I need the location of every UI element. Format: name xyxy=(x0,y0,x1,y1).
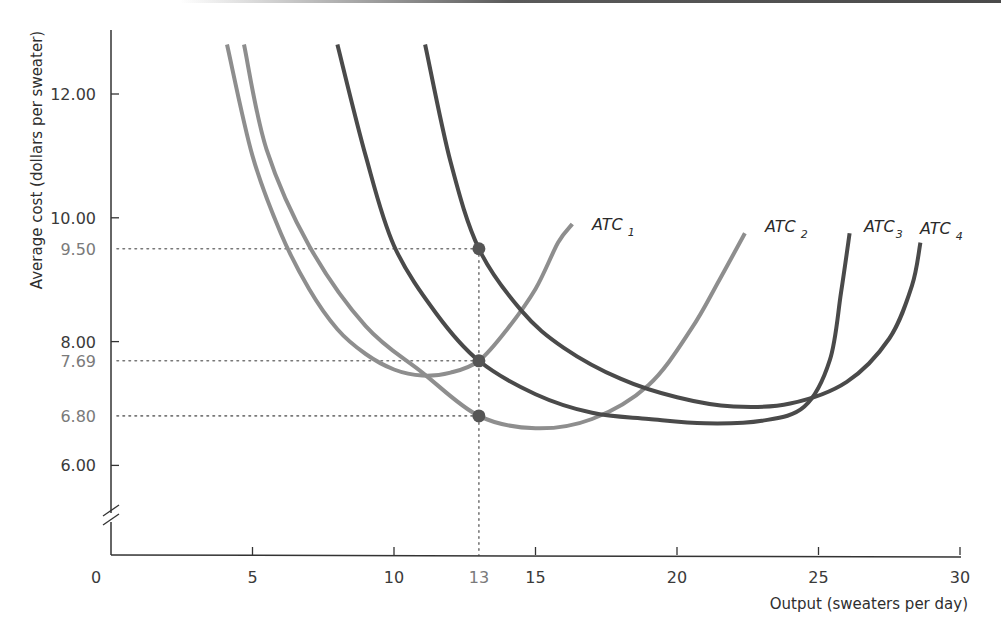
curve-label-atc1: ATC1 xyxy=(591,215,635,239)
curve-label-main: ATC xyxy=(591,215,624,234)
y-tick-label: 10.00 xyxy=(50,209,96,228)
curve-label-subscript: 4 xyxy=(956,230,963,243)
y-axis-title: Average cost (dollars per sweater) xyxy=(28,31,46,289)
y-tick-label: 7.69 xyxy=(60,352,96,371)
atc-chart: 12.0010.009.508.007.696.806.00 051013152… xyxy=(0,0,1001,636)
curve-label-main: ATC xyxy=(863,217,896,236)
x-tick-label: 5 xyxy=(247,568,257,587)
curve-labels: ATC1ATC2ATC3ATC4 xyxy=(591,215,963,243)
x-tick-label: 25 xyxy=(808,568,828,587)
curve-label-atc4: ATC4 xyxy=(919,219,963,243)
curve-atc4 xyxy=(425,45,920,408)
x-tick-label: 10 xyxy=(384,568,404,587)
curve-label-atc2: ATC2 xyxy=(764,217,808,241)
x-tick-label: 15 xyxy=(525,568,545,587)
y-tick-label: 12.00 xyxy=(50,85,96,104)
x-tick-label: 20 xyxy=(667,568,687,587)
curve-atc1 xyxy=(227,45,572,376)
point-6-8 xyxy=(472,409,485,422)
x-axis-title: Output (sweaters per day) xyxy=(770,595,968,613)
y-tick-label: 8.00 xyxy=(60,333,96,352)
point-9-5 xyxy=(472,242,485,255)
x-axis-line xyxy=(111,555,961,557)
point-7-69 xyxy=(472,354,485,367)
curve-label-subscript: 1 xyxy=(628,226,635,239)
curve-label-main: ATC xyxy=(919,219,952,238)
x-tick-label: 0 xyxy=(91,568,101,587)
y-tick-label: 6.80 xyxy=(60,407,96,426)
y-tick-label: 6.00 xyxy=(60,456,96,475)
curve-label-subscript: 2 xyxy=(801,228,808,241)
curve-label-atc3: ATC3 xyxy=(863,217,903,241)
curve-label-main: ATC xyxy=(764,217,797,236)
y-axis-ticks: 12.0010.009.508.007.696.806.00 xyxy=(50,85,119,475)
x-axis-ticks: 05101315202530 xyxy=(91,547,970,587)
y-tick-label: 9.50 xyxy=(60,240,96,259)
x-tick-label: 30 xyxy=(950,568,970,587)
curves xyxy=(227,45,920,429)
curve-label-subscript: 3 xyxy=(896,228,903,241)
x-tick-label: 13 xyxy=(469,568,489,587)
